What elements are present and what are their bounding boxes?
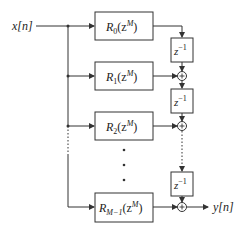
adder-2 <box>178 122 187 131</box>
input-label: x[n] <box>11 19 33 33</box>
svg-text:R1(zM): R1(zM) <box>105 69 137 86</box>
svg-text:RM−1(zM): RM−1(zM) <box>98 200 142 217</box>
svg-text:R2(zM): R2(zM) <box>105 119 137 136</box>
input-bus <box>36 26 94 207</box>
delay-box-0: z−1 <box>171 38 193 62</box>
svg-text:R0(zM): R0(zM) <box>105 19 137 36</box>
delay-box-1: z−1 <box>171 89 193 113</box>
polyphase-diagram: x[n] R0(zM) R1(zM) R2(zM) RM−1(zM) <box>0 0 248 235</box>
branch-filter-last: RM−1(zM) <box>95 193 153 222</box>
branch-filter-0: R0(zM) <box>95 12 153 40</box>
adder-last <box>178 203 187 212</box>
branch-filter-1: R1(zM) <box>95 62 153 90</box>
branch-filter-2: R2(zM) <box>95 112 153 140</box>
adder-1 <box>178 72 187 81</box>
delay-box-2: z−1 <box>171 172 193 196</box>
output-label: y[n] <box>212 200 234 214</box>
ellipsis-dots <box>123 149 126 182</box>
